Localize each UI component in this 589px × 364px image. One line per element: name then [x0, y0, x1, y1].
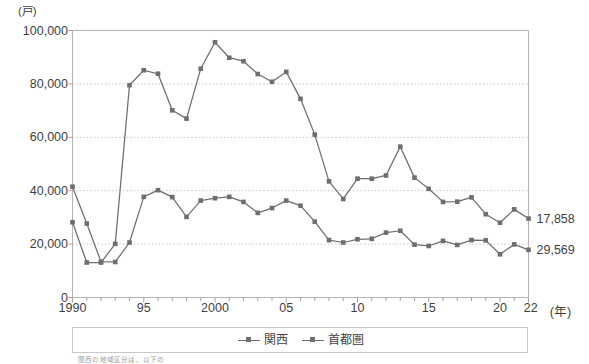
- x-axis-label-95: 95: [137, 301, 151, 315]
- data-point-marker: [84, 221, 89, 226]
- data-point-marker: [113, 242, 118, 247]
- x-axis-label-15: 15: [422, 301, 436, 315]
- legend-marker-icon: [238, 336, 260, 345]
- x-axis-label-22: 22: [524, 301, 538, 315]
- data-point-marker: [412, 175, 417, 180]
- source-note: 関西の地域区分は、以下の: [78, 354, 164, 364]
- data-point-marker: [483, 212, 488, 217]
- data-point-marker: [227, 55, 232, 60]
- data-point-marker: [284, 198, 289, 203]
- data-point-marker: [469, 238, 474, 243]
- legend-box: 関西首都圏: [72, 327, 528, 353]
- data-point-marker: [113, 260, 118, 265]
- series-end-value-1: 29,569: [537, 243, 575, 257]
- data-point-marker: [512, 207, 517, 212]
- data-point-marker: [426, 187, 431, 192]
- data-point-marker: [127, 83, 132, 88]
- x-axis-label-2000: 2000: [201, 301, 229, 315]
- legend-label: 関西: [264, 334, 288, 346]
- data-point-marker: [213, 196, 218, 201]
- data-point-marker: [99, 260, 104, 265]
- data-point-marker: [255, 72, 260, 77]
- x-axis-label-05: 05: [279, 301, 293, 315]
- data-point-marker: [341, 197, 346, 202]
- data-point-marker: [341, 240, 346, 245]
- data-point-marker: [398, 228, 403, 233]
- data-point-marker: [298, 203, 303, 208]
- data-point-marker: [156, 188, 161, 193]
- data-point-marker: [355, 237, 360, 242]
- data-point-marker: [213, 40, 218, 45]
- data-point-marker: [170, 108, 175, 113]
- x-axis-label-10: 10: [351, 301, 365, 315]
- data-point-marker: [483, 238, 488, 243]
- data-point-marker: [70, 220, 75, 225]
- data-point-marker: [526, 216, 531, 221]
- legend-item-2[interactable]: 首都圏: [302, 334, 364, 346]
- data-point-marker: [455, 243, 460, 248]
- data-point-marker: [327, 179, 332, 184]
- data-point-marker: [441, 239, 446, 244]
- data-point-marker: [384, 230, 389, 235]
- data-point-marker: [412, 242, 417, 247]
- x-axis-unit-label: (年): [550, 301, 571, 320]
- data-point-marker: [312, 132, 317, 137]
- data-point-marker: [398, 144, 403, 149]
- series-line-2: [73, 42, 529, 262]
- data-point-marker: [127, 240, 132, 245]
- data-point-marker: [284, 70, 289, 75]
- data-point-marker: [255, 211, 260, 216]
- series-end-value-2: 17,858: [537, 212, 575, 226]
- data-point-marker: [498, 252, 503, 257]
- data-point-marker: [298, 97, 303, 102]
- data-point-marker: [198, 66, 203, 71]
- data-point-marker: [241, 59, 246, 64]
- data-point-marker: [184, 116, 189, 121]
- legend: 関西首都圏: [73, 328, 529, 352]
- data-point-marker: [526, 248, 531, 253]
- data-point-marker: [426, 244, 431, 249]
- data-point-marker: [84, 260, 89, 265]
- plot-frame: [73, 31, 529, 298]
- legend-label: 首都圏: [328, 334, 364, 346]
- data-point-marker: [170, 195, 175, 200]
- data-point-marker: [141, 195, 146, 200]
- data-point-marker: [270, 206, 275, 211]
- data-point-marker: [270, 79, 275, 84]
- data-point-marker: [241, 200, 246, 205]
- data-point-marker: [184, 215, 189, 220]
- data-point-marker: [498, 220, 503, 225]
- data-point-marker: [355, 176, 360, 181]
- legend-marker-icon: [302, 336, 324, 345]
- series-line-1: [73, 187, 529, 262]
- data-point-marker: [369, 236, 374, 241]
- data-point-marker: [469, 195, 474, 200]
- data-point-marker: [512, 242, 517, 247]
- data-point-marker: [441, 200, 446, 205]
- data-point-marker: [384, 173, 389, 178]
- data-point-marker: [455, 199, 460, 204]
- legend-item-1[interactable]: 関西: [238, 334, 288, 346]
- data-point-marker: [312, 219, 317, 224]
- data-point-marker: [156, 71, 161, 76]
- data-point-marker: [369, 176, 374, 181]
- x-axis-label-20: 20: [493, 301, 507, 315]
- data-point-marker: [327, 238, 332, 243]
- data-point-marker: [227, 195, 232, 200]
- data-point-marker: [70, 184, 75, 189]
- x-axis-label-1990: 1990: [59, 301, 87, 315]
- data-point-marker: [198, 198, 203, 203]
- data-point-marker: [141, 68, 146, 73]
